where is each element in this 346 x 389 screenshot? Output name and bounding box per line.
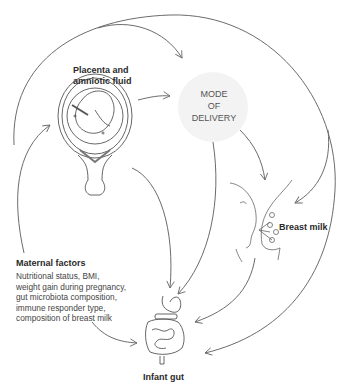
arrow-breast-milk-to-gut [195,258,255,322]
arrow-to-mode-of-delivery [98,25,182,58]
breast-milk-label: Breast milk [279,222,328,233]
maternal-factors-title: Maternal factors [16,258,126,269]
maternal-factor-line: gut microbiota composition, [16,292,126,303]
arrow-placenta-to-gut [132,168,171,288]
arrow-maternal-to-gut [92,322,137,343]
placenta-label-line2: amniotic fluid [73,76,132,87]
mode-of-delivery-label: MODE OF DELIVERY [183,88,245,124]
uterus-with-fetus-icon [58,74,132,195]
mode-line2: OF [183,100,245,112]
maternal-factor-line: composition of breast milk [16,313,126,324]
arrow-mode-to-gut [178,142,216,294]
arrow-mode-to-breast-milk [240,130,265,180]
mode-line1: MODE [183,88,245,100]
diagram-canvas [0,0,346,389]
maternal-factor-line: immune responder type, [16,303,126,314]
breastfeeding-infant-icon [230,180,292,262]
maternal-factor-line: Nutritional status, BMI, [16,271,126,282]
arrow-placenta-to-mode [138,96,170,100]
mode-line3: DELIVERY [183,112,245,124]
digestive-tract-icon [146,296,185,364]
arrow-to-breast-milk-outer [295,130,329,203]
maternal-factor-line: weight gain during pregnancy, [16,282,126,293]
maternal-factors-block: Maternal factors Nutritional status, BMI… [16,258,126,324]
arrow-maternal-to-placenta [18,125,50,253]
infant-gut-label: Infant gut [143,372,184,383]
placenta-label: Placenta and amniotic fluid [73,65,132,87]
placenta-label-line1: Placenta and [73,65,132,76]
